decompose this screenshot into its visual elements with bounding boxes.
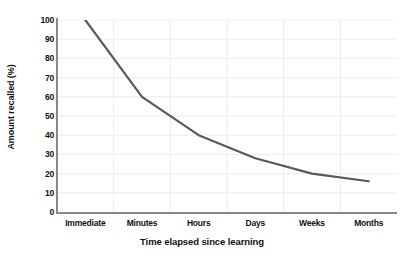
y-tick-label: 0 bbox=[24, 207, 54, 217]
y-axis-tick-labels: 0102030405060708090100 bbox=[24, 14, 54, 212]
y-tick-label: 10 bbox=[24, 188, 54, 198]
x-tick-label: Minutes bbox=[127, 218, 158, 228]
y-tick-label: 70 bbox=[24, 73, 54, 83]
plot-svg bbox=[57, 20, 397, 212]
x-axis-title: Time elapsed since learning bbox=[0, 236, 404, 247]
y-axis-line bbox=[56, 18, 58, 214]
x-axis-tick-labels: ImmediateMinutesHoursDaysWeeksMonths bbox=[57, 218, 397, 234]
y-tick-label: 20 bbox=[24, 169, 54, 179]
y-axis-title-text: Amount recalled (%) bbox=[6, 64, 16, 149]
x-tick-label: Days bbox=[246, 218, 266, 228]
y-tick-label: 80 bbox=[24, 53, 54, 63]
y-axis-title: Amount recalled (%) bbox=[0, 0, 22, 214]
x-tick-label: Months bbox=[354, 218, 383, 228]
y-tick-label: 90 bbox=[24, 34, 54, 44]
x-tick-label: Weeks bbox=[299, 218, 325, 228]
forgetting-curve-chart: Amount recalled (%) 01020304050607080901… bbox=[0, 0, 404, 262]
y-tick-label: 50 bbox=[24, 111, 54, 121]
x-tick-label: Immediate bbox=[65, 218, 105, 228]
y-tick-label: 40 bbox=[24, 130, 54, 140]
x-tick-label: Hours bbox=[187, 218, 211, 228]
plot-area bbox=[57, 20, 397, 212]
y-tick-label: 100 bbox=[24, 15, 54, 25]
x-axis-line bbox=[56, 212, 397, 214]
y-tick-label: 30 bbox=[24, 149, 54, 159]
y-tick-label: 60 bbox=[24, 92, 54, 102]
